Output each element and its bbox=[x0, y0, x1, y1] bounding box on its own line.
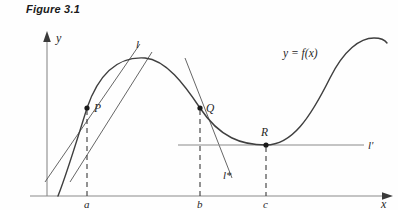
point-label-q: Q bbox=[206, 102, 215, 114]
point-label-p: P bbox=[93, 102, 101, 114]
x-tick-label-b: b bbox=[197, 198, 203, 210]
tangent-line-l-label: l bbox=[136, 38, 139, 50]
x-axis-label: x bbox=[380, 197, 387, 210]
tangent-line-l-star-label: l* bbox=[223, 169, 232, 181]
x-tick-label-c: c bbox=[263, 198, 268, 210]
secant-line-through-p bbox=[70, 52, 152, 182]
point-label-r: R bbox=[260, 126, 268, 138]
tangent-line-l-prime-label: l' bbox=[368, 139, 374, 151]
x-tick-label-a: a bbox=[84, 198, 90, 210]
y-axis-arrowhead bbox=[43, 31, 51, 42]
curve-equation-label: y = f(x) bbox=[282, 47, 318, 60]
figure-container: Figure 3.1 y x l l* l' y = f(x) bbox=[0, 0, 398, 210]
y-axis-label: y bbox=[55, 31, 62, 45]
tangent-line-l-star bbox=[185, 58, 232, 178]
point-marker-p bbox=[84, 105, 89, 110]
point-marker-q bbox=[197, 105, 202, 110]
tangent-line-l bbox=[45, 44, 140, 182]
figure-plot: y x l l* l' y = f(x) P Q R a b c bbox=[0, 0, 398, 210]
point-marker-r bbox=[263, 142, 268, 147]
